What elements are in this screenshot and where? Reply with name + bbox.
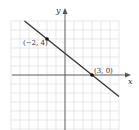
coordinate-plane: (−2, 4) (3, 0) x y <box>0 0 139 130</box>
y-axis <box>63 8 68 130</box>
x-axis <box>12 73 131 78</box>
point-b-label: (3, 0) <box>94 67 113 75</box>
x-axis-label: x <box>128 77 133 86</box>
graph-line <box>25 21 120 97</box>
y-axis-label: y <box>55 6 61 15</box>
y-axis-arrow-icon <box>63 8 68 14</box>
point-a-label: (−2, 4) <box>23 39 48 47</box>
